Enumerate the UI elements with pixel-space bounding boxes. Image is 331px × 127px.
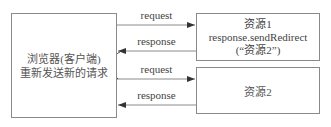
request-label-1: request: [117, 9, 196, 21]
response-label-2: response: [117, 89, 196, 101]
resource1-box: 资源1 response.sendRedirect (“资源2”): [196, 13, 320, 61]
request-label-2: request: [117, 63, 196, 75]
response-label-1: response: [117, 35, 196, 47]
resource1-arg: (“资源2”): [236, 44, 281, 57]
resource1-code: response.sendRedirect: [209, 31, 308, 44]
client-label: 浏览器(客户端): [27, 52, 100, 66]
client-action-label: 重新发送新的请求: [20, 66, 108, 80]
resource2-title: 资源2: [244, 83, 272, 99]
client-browser-box: 浏览器(客户端) 重新发送新的请求: [11, 13, 117, 118]
resource2-box: 资源2: [196, 67, 320, 114]
resource1-title: 资源1: [244, 18, 272, 31]
